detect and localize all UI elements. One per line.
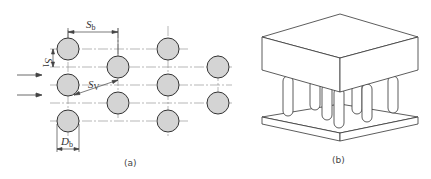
pin-circle [57,74,79,96]
figure-b-pin-fin-block [262,14,418,141]
pin-circle [157,74,179,96]
pin-circle [57,110,79,132]
caption-b: (b) [332,155,345,165]
pin [388,76,398,113]
pin-circle [57,38,79,60]
caption-a: (a) [124,158,137,168]
pin-fin-diagram: Sb S1 SV Db (a) (b) [0,0,431,179]
pin-circle [107,56,129,78]
pin-circle [207,56,229,78]
pin [362,84,372,122]
pin-circle [157,38,179,60]
pin-circle [157,110,179,132]
pin-circle [107,92,129,114]
label-sv: SV [88,78,100,92]
figure-a-staggered-layout [17,26,232,152]
flow-arrows [17,73,42,97]
pin [283,76,293,116]
label-sb: Sb [86,18,96,32]
label-db: Db [60,135,73,149]
pin [334,88,344,128]
pin-circle [207,92,229,114]
